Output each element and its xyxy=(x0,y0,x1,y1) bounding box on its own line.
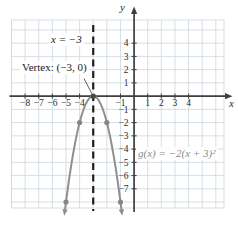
x-tick-label: −6 xyxy=(47,98,57,108)
y-tick-label: −5 xyxy=(118,158,128,168)
vertex-point xyxy=(91,93,96,98)
function-formula-label: g(x) = −2(x + 3)² xyxy=(136,147,217,160)
x-tick-label: −4 xyxy=(75,98,85,108)
data-point xyxy=(118,199,123,204)
y-tick-label: 4 xyxy=(124,38,129,48)
vertex-pointer-line xyxy=(84,79,92,94)
vertex-label: Vertex: (−3, 0) xyxy=(20,61,89,74)
y-tick-label: −2 xyxy=(118,118,128,128)
parabola-figure: −8−7−6−5−4−112344321−1−2−3−4−5−6−7xy x =… xyxy=(0,0,238,227)
axis-of-symmetry-label: x = −3 xyxy=(49,33,84,46)
y-axis-letter: y xyxy=(119,1,125,13)
curve-end-arrowhead xyxy=(62,209,67,216)
y-tick-label: −1 xyxy=(118,105,128,115)
x-tick-label: −5 xyxy=(61,98,71,108)
y-tick-label: 1 xyxy=(124,78,129,88)
data-point xyxy=(104,120,109,125)
parabola-plot-canvas: −8−7−6−5−4−112344321−1−2−3−4−5−6−7xy xyxy=(0,0,238,227)
x-tick-label: 4 xyxy=(186,98,191,108)
y-tick-label: 2 xyxy=(124,65,129,75)
curve-end-arrowhead xyxy=(119,209,124,216)
data-point xyxy=(63,199,68,204)
y-tick-label: −3 xyxy=(118,131,128,141)
x-tick-label: −7 xyxy=(34,98,44,108)
y-tick-label: 3 xyxy=(124,52,129,62)
y-tick-label: −6 xyxy=(118,171,128,181)
y-tick-label: −4 xyxy=(118,144,128,154)
data-point xyxy=(77,120,82,125)
x-tick-label: 3 xyxy=(173,98,178,108)
x-tick-label: 1 xyxy=(145,98,150,108)
x-tick-label: 2 xyxy=(159,98,164,108)
x-axis-letter: x xyxy=(228,97,234,109)
y-axis-arrowhead xyxy=(131,7,137,15)
x-tick-label: −8 xyxy=(20,98,30,108)
